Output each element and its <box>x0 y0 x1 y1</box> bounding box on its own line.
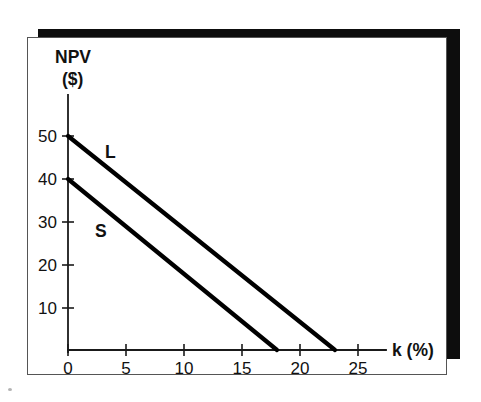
y-tick-label-30: 30 <box>38 213 57 232</box>
y-tick-label-40: 40 <box>38 170 57 189</box>
x-tick-label-25: 25 <box>349 359 368 378</box>
y-axis-title-line2: ($) <box>62 69 83 89</box>
y-tick-label-20: 20 <box>38 256 57 275</box>
series-line-S <box>68 179 277 350</box>
x-tick-label-20: 20 <box>291 359 310 378</box>
series-label-L: L <box>105 142 116 162</box>
npv-profile-chart: 50 40 30 20 10 0 5 10 15 20 25 NPV ($) k… <box>0 0 481 402</box>
x-tick-label-10: 10 <box>175 359 194 378</box>
y-tick-label-10: 10 <box>38 299 57 318</box>
y-tick-label-50: 50 <box>38 127 57 146</box>
x-axis-title: k (%) <box>392 340 434 360</box>
series-line-L <box>68 136 335 350</box>
series-label-S: S <box>95 221 107 241</box>
scan-artifact-speck <box>8 388 12 391</box>
x-tick-label-15: 15 <box>233 359 252 378</box>
x-tick-label-5: 5 <box>121 359 130 378</box>
x-tick-label-0: 0 <box>63 359 72 378</box>
npv-profile-figure: 50 40 30 20 10 0 5 10 15 20 25 NPV ($) k… <box>0 0 481 402</box>
y-axis-title-line1: NPV <box>55 47 91 67</box>
